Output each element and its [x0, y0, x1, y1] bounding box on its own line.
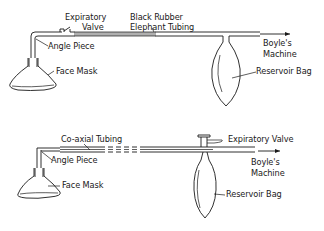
- label-expiratory-valve-bottom: Expiratory Valve: [228, 135, 293, 144]
- label-expiratory-valve-line1: Expiratory: [65, 13, 106, 22]
- label-face-mask-top: Face Mask: [56, 67, 97, 76]
- label-angle-piece-top: Angle Piece: [48, 42, 94, 51]
- label-boyles-machine-top-line1: Boyle's: [263, 39, 292, 48]
- label-expiratory-valve-line2: Valve: [82, 23, 104, 32]
- label-coaxial-tubing: Co-axial Tubing: [61, 135, 122, 144]
- label-boyles-machine-bottom-line1: Boyle's: [251, 158, 280, 167]
- label-tubing-line1: Black Rubber: [130, 13, 183, 22]
- label-tubing-line2: Elephant Tubing: [130, 23, 194, 32]
- bottom-circuit: [18, 135, 280, 218]
- label-boyles-machine-top-line2: Machine: [263, 50, 297, 59]
- anaesthetic-circuit-diagram: Expiratory Valve Black Rubber Elephant T…: [0, 0, 324, 231]
- label-angle-piece-bottom: Angle Piece: [51, 156, 97, 165]
- label-boyles-machine-bottom-line2: Machine: [251, 169, 285, 178]
- label-reservoir-bag-bottom: Reservoir Bag: [226, 190, 282, 199]
- top-circuit: [10, 27, 290, 106]
- label-reservoir-bag-top: Reservoir Bag: [256, 67, 312, 76]
- tubing-corrugations: [77, 32, 153, 36]
- label-face-mask-bottom: Face Mask: [62, 181, 103, 190]
